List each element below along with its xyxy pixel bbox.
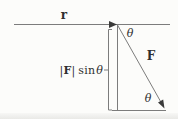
component-magnitude-label: |F|sinθ (59, 65, 103, 76)
sine-function-label: sin (75, 64, 96, 77)
angle-top-label: θ (127, 28, 134, 39)
component-force-symbol: F (63, 64, 71, 77)
component-dimension-bracket (104, 30, 112, 111)
lever-arm-label: r (61, 9, 67, 21)
component-angle-symbol: θ (96, 64, 103, 77)
force-label: F (147, 50, 156, 62)
figure-torque-force-diagram: r θ F θ |F|sinθ (0, 0, 178, 119)
angle-bottom-label: θ (145, 93, 152, 104)
force-arrowhead-icon (158, 100, 165, 109)
lever-arm-arrowhead-icon (109, 21, 117, 28)
force-vector-line (118, 25, 163, 104)
